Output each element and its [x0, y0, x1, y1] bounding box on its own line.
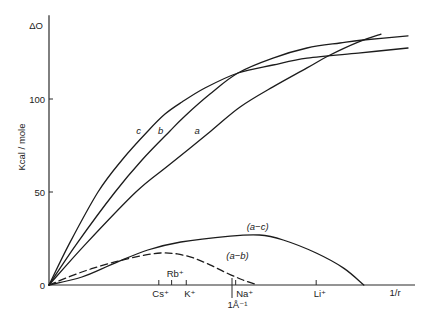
curve-c [49, 48, 408, 285]
curve-label: a [195, 125, 200, 136]
curve-label: b [158, 125, 163, 136]
x-axis-label: 1/r [389, 287, 400, 298]
x-marker-label: Rb⁺ [167, 268, 184, 279]
x-marker-label: 1Å⁻¹ [228, 299, 248, 310]
curve-label: (a−c) [247, 221, 269, 232]
y-tick-label: 0 [40, 280, 45, 291]
labels-group: ΔO Kcal / mole 1/r 050100Cs⁺Rb⁺K⁺1Å⁻¹Na⁺… [16, 20, 401, 310]
curve-ac [49, 235, 364, 285]
y-axis-label: Kcal / mole [16, 124, 27, 171]
series-group [49, 34, 408, 285]
x-marker-label: Cs⁺ [152, 288, 169, 299]
chart: ΔO Kcal / mole 1/r 050100Cs⁺Rb⁺K⁺1Å⁻¹Na⁺… [0, 0, 429, 325]
curve-b [49, 36, 408, 285]
y-tick-label: 100 [29, 94, 45, 105]
y-axis-top-label: ΔO [29, 20, 43, 31]
x-marker-label: Na⁺ [236, 288, 253, 299]
x-marker-label: Li⁺ [314, 288, 326, 299]
x-marker-label: K⁺ [184, 288, 195, 299]
curve-a [49, 34, 381, 285]
curve-label: c [136, 125, 141, 136]
y-tick-label: 50 [34, 187, 45, 198]
curve-label: (a−b) [226, 250, 248, 261]
